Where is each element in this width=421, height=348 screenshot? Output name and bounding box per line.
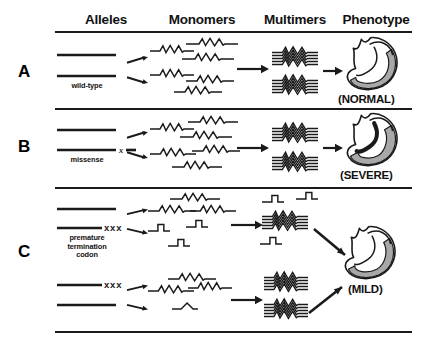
phenotype-heart-b <box>344 112 402 168</box>
split-arrow-a-0 <box>126 50 150 70</box>
phenotype-caption-b: (SEVERE) <box>340 169 393 181</box>
split-arrow <box>126 202 150 222</box>
split-arrow <box>126 50 150 70</box>
multimer-c-4 <box>264 269 312 298</box>
monomer-trunc <box>168 237 192 253</box>
multimer-b-0 <box>272 120 322 149</box>
monomer-c-5 <box>168 237 192 253</box>
split-arrow-c-1 <box>126 221 150 241</box>
split-arrow-c-3 <box>126 297 150 317</box>
allele-c-2: xxx <box>56 277 136 293</box>
allele-caption-c: premature termination codon <box>50 234 124 260</box>
multimer-b-1 <box>272 149 322 178</box>
phenotype-arrow-c-1 <box>308 286 344 314</box>
allele-caption-a: wild-type <box>56 82 118 91</box>
split-arrow-a-1 <box>126 70 150 90</box>
phenotype-arrow <box>322 64 344 78</box>
column-header-multimers: Multimers <box>248 12 342 27</box>
heart-severe <box>344 112 402 168</box>
phenotype-heart-a <box>344 36 402 92</box>
monomer-c-mm3 <box>260 235 284 251</box>
assembly-arrow <box>230 218 264 232</box>
multimer-stack <box>272 72 322 101</box>
assembly-arrow <box>236 62 270 76</box>
phenotype-arrow-b-0 <box>322 141 344 155</box>
monomer-a-1 <box>186 37 240 53</box>
heart-normal <box>344 36 402 92</box>
column-header-phenotype: Phenotype <box>332 12 420 27</box>
phenotype-heart-c <box>342 225 400 281</box>
monomer-c-4 <box>186 218 210 234</box>
multimer-c-5 <box>264 296 312 325</box>
phenotype-caption-a: (NORMAL) <box>338 93 395 105</box>
split-arrow <box>126 125 150 145</box>
monomer-trunc <box>296 190 320 206</box>
monomer-full <box>182 52 236 68</box>
monomer-b-1 <box>188 115 240 131</box>
split-arrow <box>126 278 150 298</box>
split-arrow-b-0 <box>126 125 150 145</box>
monomer-full <box>192 144 242 160</box>
divider-rule-1 <box>55 108 412 110</box>
multimer-stack <box>264 296 312 325</box>
monomer-full <box>172 160 224 176</box>
figure-root: AllelesMonomersMultimersPhenotypeAwild-t… <box>0 0 421 348</box>
assembly-arrow-c-1 <box>230 218 264 232</box>
split-arrow-b-1 <box>126 145 150 165</box>
multimer-stack <box>272 44 322 73</box>
monomer-trunc <box>260 235 284 251</box>
assembly-arrow-c-2 <box>230 293 264 307</box>
monomer-a-5 <box>174 85 224 101</box>
monomer-full <box>188 281 234 297</box>
divider-rule-2 <box>55 187 412 189</box>
multimer-stack <box>264 269 312 298</box>
split-arrow <box>126 145 150 165</box>
monomer-full <box>188 115 240 131</box>
allele-marker-text: x <box>118 145 124 155</box>
multimer-a-0 <box>272 44 322 73</box>
monomer-b-4 <box>192 144 242 160</box>
divider-rule-0 <box>55 31 412 33</box>
phenotype-caption-c: (MILD) <box>348 283 383 295</box>
monomer-bump <box>172 302 200 318</box>
allele-marker-text: xxx <box>104 279 122 290</box>
assembly-arrow <box>230 293 264 307</box>
column-header-alleles: Alleles <box>60 12 152 27</box>
phenotype-arrow <box>308 286 344 314</box>
column-header-monomers: Monomers <box>148 12 256 27</box>
allele-marker-text: xxx <box>104 222 122 233</box>
monomer-c-3 <box>148 222 172 238</box>
multimer-a-1 <box>272 72 322 101</box>
multimer-c-2 <box>262 208 312 237</box>
monomer-trunc <box>186 218 210 234</box>
monomer-c-9 <box>172 302 200 318</box>
phenotype-arrow <box>322 141 344 155</box>
assembly-arrow-b-1 <box>236 141 270 155</box>
split-arrow-c-2 <box>126 278 150 298</box>
phenotype-arrow-a-0 <box>322 64 344 78</box>
monomer-c-8 <box>188 281 234 297</box>
allele-bar: xxx <box>56 277 136 293</box>
split-arrow-c-0 <box>126 202 150 222</box>
monomer-b-5 <box>172 160 224 176</box>
multimer-stack <box>272 120 322 149</box>
heart-mild <box>342 225 400 281</box>
allele-caption-b: missense <box>56 156 118 165</box>
assembly-arrow <box>236 141 270 155</box>
split-arrow <box>126 70 150 90</box>
monomer-full <box>174 85 224 101</box>
multimer-stack <box>272 149 322 178</box>
monomer-trunc <box>148 222 172 238</box>
split-arrow <box>126 297 150 317</box>
divider-rule-3 <box>55 331 412 333</box>
panel-letter-c: C <box>18 242 30 262</box>
panel-letter-a: A <box>18 62 30 82</box>
monomer-c-mm1 <box>296 190 320 206</box>
monomer-a-2 <box>182 52 236 68</box>
split-arrow <box>126 221 150 241</box>
monomer-full <box>186 37 240 53</box>
assembly-arrow-a-1 <box>236 62 270 76</box>
panel-letter-b: B <box>18 137 30 157</box>
multimer-stack <box>262 208 312 237</box>
